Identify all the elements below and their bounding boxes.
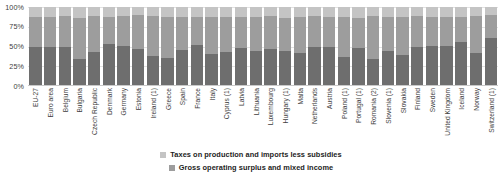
stacked-bar[interactable] (73, 7, 85, 86)
bar-segment (382, 7, 394, 16)
bar-segment (220, 17, 232, 52)
bar-slot[interactable] (454, 7, 469, 86)
bar-slot[interactable] (146, 7, 161, 86)
stacked-bar[interactable] (59, 7, 71, 86)
stacked-bar[interactable] (426, 7, 438, 86)
bar-slot[interactable] (439, 7, 454, 86)
bar-slot[interactable] (28, 7, 43, 86)
stacked-bar[interactable] (470, 7, 482, 86)
stacked-bar[interactable] (485, 7, 497, 86)
bar-segment (308, 7, 320, 16)
stacked-bar[interactable] (455, 7, 467, 86)
x-axis-tick-label: Netherlands (311, 88, 318, 124)
stacked-bar[interactable] (132, 7, 144, 86)
stacked-bar[interactable] (264, 7, 276, 86)
bar-slot[interactable] (307, 7, 322, 86)
stacked-bar[interactable] (308, 7, 320, 86)
bar-slot[interactable] (234, 7, 249, 86)
stacked-bar[interactable] (44, 7, 56, 86)
bar-slot[interactable] (336, 7, 351, 86)
y-axis-tick-label: 100% (5, 4, 24, 11)
x-axis-tick-label: Spain (179, 88, 186, 105)
bar-segment (455, 17, 467, 42)
bar-slot[interactable] (160, 7, 175, 86)
bar-segment (132, 7, 144, 15)
bar-segment (338, 57, 350, 86)
x-label-slot: Romania (2) (366, 88, 381, 140)
stacked-bar[interactable] (29, 7, 41, 86)
stacked-bar[interactable] (250, 7, 262, 86)
bar-slot[interactable] (278, 7, 293, 86)
bar-segment (352, 48, 364, 86)
bar-segment (191, 45, 203, 86)
bar-slot[interactable] (366, 7, 381, 86)
bar-segment (367, 59, 379, 86)
x-label-slot: Greece (160, 88, 175, 140)
stacked-bar[interactable] (117, 7, 129, 86)
bar-slot[interactable] (292, 7, 307, 86)
stacked-bar[interactable] (235, 7, 247, 86)
legend-item[interactable]: Gross operating surplus and mixed income (0, 161, 502, 174)
stacked-bar[interactable] (294, 7, 306, 86)
bar-slot[interactable] (381, 7, 396, 86)
bar-segment (485, 7, 497, 15)
x-label-slot: Austria (322, 88, 337, 140)
x-axis-tick-label: Luxembourg (267, 88, 274, 125)
stacked-bar[interactable] (147, 7, 159, 86)
bar-slot[interactable] (87, 7, 102, 86)
x-label-slot: Slovakia (395, 88, 410, 140)
bar-slot[interactable] (175, 7, 190, 86)
bar-segment (485, 38, 497, 86)
bar-segment (73, 59, 85, 86)
bar-segment (88, 52, 100, 86)
stacked-bar[interactable] (338, 7, 350, 86)
stacked-bar[interactable] (440, 7, 452, 86)
bar-slot[interactable] (57, 7, 72, 86)
bar-slot[interactable] (204, 7, 219, 86)
bar-segment (29, 7, 41, 16)
stacked-bar[interactable] (191, 7, 203, 86)
legend-item[interactable]: Taxes on production and imports less sub… (0, 148, 502, 161)
bar-slot[interactable] (116, 7, 131, 86)
x-label-slot: Spain (175, 88, 190, 140)
stacked-bar[interactable] (411, 7, 423, 86)
bar-slot[interactable] (425, 7, 440, 86)
bar-segment (279, 18, 291, 51)
bar-segment (367, 16, 379, 59)
x-label-slot: Iceland (454, 88, 469, 140)
x-label-slot: Bulgaria (72, 88, 87, 140)
bar-slot[interactable] (101, 7, 116, 86)
stacked-bar[interactable] (103, 7, 115, 86)
bar-slot[interactable] (395, 7, 410, 86)
bar-segment (338, 7, 350, 17)
x-axis-tick-label: Sweden (428, 88, 435, 112)
stacked-bar[interactable] (161, 7, 173, 86)
stacked-bar[interactable] (176, 7, 188, 86)
bar-slot[interactable] (263, 7, 278, 86)
bar-slot[interactable] (410, 7, 425, 86)
stacked-bar[interactable] (323, 7, 335, 86)
stacked-bar[interactable] (352, 7, 364, 86)
stacked-bar[interactable] (205, 7, 217, 86)
bar-slot[interactable] (351, 7, 366, 86)
bar-segment (103, 44, 115, 86)
x-label-slot: Malta (292, 88, 307, 140)
stacked-bar[interactable] (88, 7, 100, 86)
x-label-slot: Cyprus (1) (219, 88, 234, 140)
bar-slot[interactable] (469, 7, 484, 86)
bar-slot[interactable] (322, 7, 337, 86)
bar-slot[interactable] (219, 7, 234, 86)
bar-slot[interactable] (190, 7, 205, 86)
bar-segment (161, 17, 173, 58)
stacked-bar[interactable] (382, 7, 394, 86)
bar-slot[interactable] (248, 7, 263, 86)
x-axis-line (28, 85, 498, 86)
stacked-bar[interactable] (396, 7, 408, 86)
stacked-bar[interactable] (220, 7, 232, 86)
stacked-bar[interactable] (279, 7, 291, 86)
stacked-bar[interactable] (367, 7, 379, 86)
bar-slot[interactable] (483, 7, 498, 86)
bar-slot[interactable] (43, 7, 58, 86)
bar-slot[interactable] (72, 7, 87, 86)
bar-slot[interactable] (131, 7, 146, 86)
